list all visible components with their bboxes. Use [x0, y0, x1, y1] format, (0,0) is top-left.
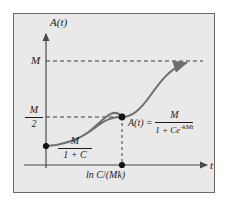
equation-numerator: M: [155, 110, 193, 121]
y-intercept-label: M 1 + C: [58, 136, 92, 160]
equation-fraction: M 1 + Ce-kMt: [155, 110, 193, 135]
equation-equals: =: [147, 117, 153, 128]
equation-annotation: A(t) = M 1 + Ce-kMt: [128, 110, 193, 135]
y-tick-half-M: M 2: [25, 105, 43, 129]
x-tick-prefix: ln C: [86, 169, 103, 180]
y-tick-half-M-denominator: 2: [25, 119, 43, 130]
inflection-point-dot: [119, 114, 126, 121]
y-intercept-dot: [43, 143, 49, 149]
y-tick-half-M-numerator: M: [25, 105, 43, 116]
x-tick-dot: [119, 162, 125, 168]
y-tick-M: M: [31, 55, 40, 66]
y-axis-label: A(t): [50, 17, 67, 28]
x-tick-suffix: (Mk): [106, 169, 125, 180]
logistic-growth-figure: A(t) t M M 2 M 1 + C ln C/(Mk) A(t) = M …: [0, 0, 235, 209]
y-intercept-numerator: M: [58, 136, 92, 147]
x-tick-inflection-label: ln C/(Mk): [86, 170, 125, 180]
equation-lhs: A(t): [128, 117, 144, 128]
equation-denominator-exponent: -kMt: [180, 123, 193, 131]
y-intercept-denominator: 1 + C: [58, 150, 92, 161]
x-axis-label: t: [210, 160, 213, 171]
equation-denominator: 1 + Ce-kMt: [155, 124, 193, 135]
equation-denominator-base: 1 + Ce: [155, 125, 180, 135]
